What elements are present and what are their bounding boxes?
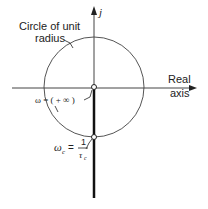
- real-axis-label-line2: axis: [170, 87, 190, 99]
- circle-label-line1: Circle of unit: [19, 20, 80, 32]
- cutoff-label-omega-sub: c: [62, 148, 66, 156]
- cutoff-point-marker: [92, 135, 97, 140]
- real-axis-label-line1: Real: [168, 73, 191, 85]
- cutoff-label-numerator: 1: [81, 137, 86, 147]
- real-axis-arrow-icon: [189, 85, 197, 91]
- cutoff-label-equals: =: [68, 142, 74, 153]
- circle-label-line2: radius: [35, 32, 65, 44]
- origin-point-marker: [92, 85, 97, 90]
- cutoff-label-denominator: τ: [79, 150, 83, 160]
- cutoff-label-leader: [86, 139, 92, 149]
- imaginary-axis-arrow-icon: [91, 6, 97, 15]
- polar-locus-diagram: Circle of unit radius j Real axis ω = ( …: [0, 0, 208, 209]
- cutoff-label-omega: ω: [54, 141, 62, 153]
- origin-label-tick: [55, 106, 58, 112]
- origin-label-leader: [84, 90, 92, 100]
- imaginary-axis-label: j: [97, 6, 102, 18]
- cutoff-label-denominator-sub: c: [84, 155, 87, 161]
- origin-label: ω = ( + ∞ ): [35, 95, 75, 105]
